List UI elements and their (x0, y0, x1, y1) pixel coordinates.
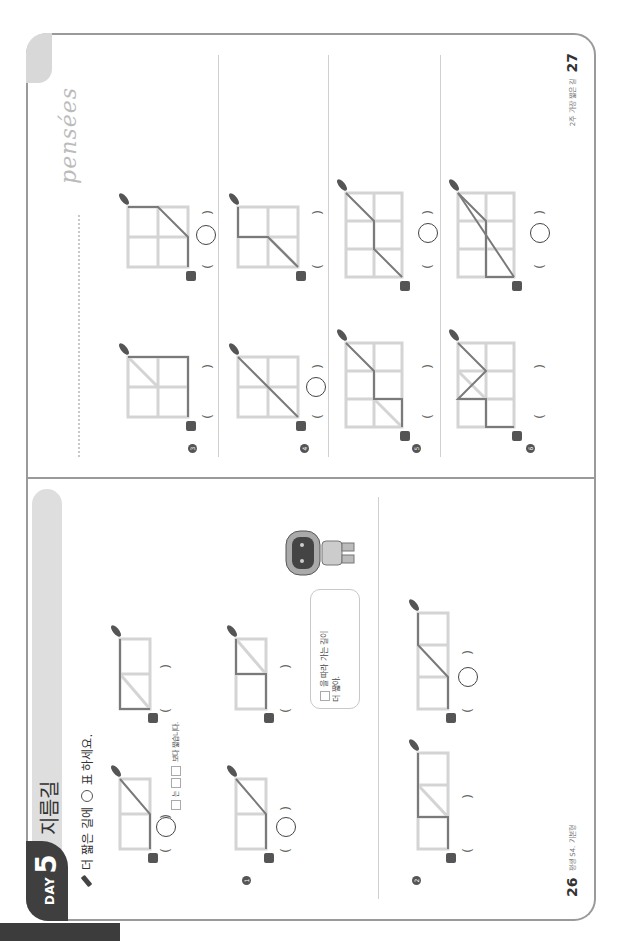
corner-tab (26, 33, 52, 83)
edge-tab (0, 923, 120, 941)
header-dotted-line (78, 215, 80, 457)
answer-circle[interactable] (458, 667, 478, 687)
hint-text: 는 보다 짧습니다. (170, 722, 181, 811)
fish-icon (109, 624, 123, 639)
pencil-icon (81, 875, 93, 887)
row-divider (440, 55, 441, 457)
page-number: 27 (564, 53, 580, 72)
problem-5-option-b (336, 177, 416, 287)
robot-mascot-icon (278, 523, 358, 583)
circle-mark-icon (81, 790, 93, 802)
page-number: 26 (564, 878, 580, 897)
problem-6-option-a (448, 327, 528, 437)
book-spread: DAY 5 지름길 더 짧은 길에 표 하세요. ) ( (0, 0, 617, 941)
answer-circle[interactable] (306, 377, 326, 397)
answer-circle[interactable] (276, 817, 296, 837)
answer-circle[interactable] (530, 223, 550, 243)
day-badge: DAY 5 (26, 841, 68, 921)
cat-icon (148, 853, 158, 863)
instruction-text-1: 더 짧은 길에 (78, 807, 95, 870)
right-page: pensées 3 ( ) ( ) 4 (26, 33, 596, 479)
day-label: DAY (43, 877, 57, 905)
footer-text: 평생 S4. 기본형 (567, 825, 577, 871)
problem-number: 6 (526, 444, 535, 453)
speech-bubble: 을 따라 가는 길이 더 짧아. (310, 589, 360, 709)
answer-circle[interactable] (196, 225, 216, 245)
page-title: 지름길 (34, 781, 63, 835)
instruction: 더 짧은 길에 표 하세요. (78, 734, 95, 887)
square-icon (171, 778, 181, 788)
row-divider (218, 55, 219, 457)
diagonal-square-icon (320, 691, 330, 701)
cat-icon (148, 713, 158, 723)
problem-6-option-b (448, 177, 528, 287)
row-divider (328, 55, 329, 457)
example-option-b-grid (110, 629, 170, 719)
problem-number: 3 (188, 444, 197, 453)
problem-number: 5 (412, 444, 421, 453)
day-number: 5 (33, 854, 61, 873)
problem-number: 2 (412, 876, 421, 885)
fish-icon (109, 764, 123, 779)
problem-number: 1 (242, 876, 251, 885)
problem-3-option-a (118, 337, 198, 427)
section-divider (378, 497, 379, 899)
left-page: DAY 5 지름길 더 짧은 길에 표 하세요. ) ( (26, 477, 596, 921)
problem-2-option-a (408, 739, 468, 859)
header-word: pensées (56, 87, 81, 184)
instruction-text-2: 표 하세요. (78, 734, 95, 786)
problem-4-option-b (228, 187, 308, 277)
problem-4-option-a (228, 337, 308, 427)
footer-text: 2주 가장 짧은 길 (567, 79, 577, 126)
problem-3-option-b (118, 187, 198, 277)
problem-number: 4 (300, 444, 309, 453)
square-icon (171, 766, 181, 776)
problem-1-option-b (226, 629, 286, 719)
problem-5-option-a (336, 327, 416, 437)
diagonal-square-icon (171, 800, 181, 810)
answer-circle[interactable] (418, 223, 438, 243)
answer-circle[interactable] (156, 817, 176, 837)
problem-1-option-a (226, 769, 286, 859)
problem-2-option-b (408, 599, 468, 719)
